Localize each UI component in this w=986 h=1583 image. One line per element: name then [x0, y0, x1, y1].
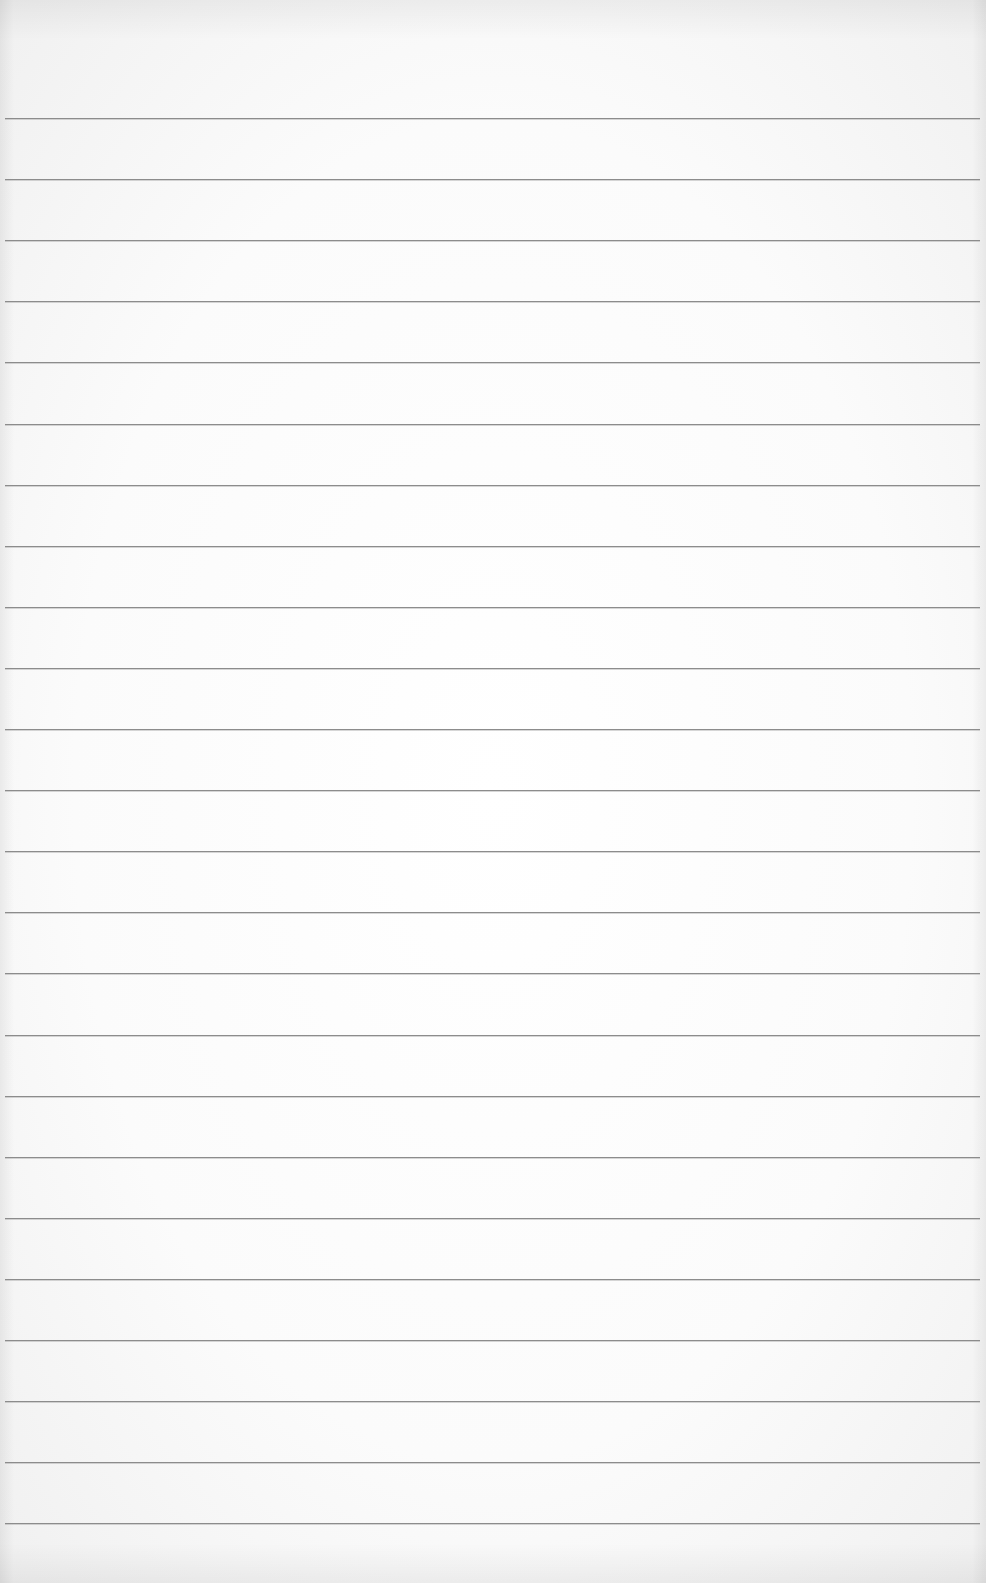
ruled-line: [5, 1157, 980, 1158]
ruled-line: [5, 1523, 980, 1524]
ruled-line: [5, 851, 980, 852]
ruled-line: [5, 424, 980, 425]
ruled-line: [5, 729, 980, 730]
ruled-line: [5, 546, 980, 547]
ruled-line: [5, 1096, 980, 1097]
ruled-line: [5, 1401, 980, 1402]
ruled-line: [5, 485, 980, 486]
ruled-line: [5, 607, 980, 608]
ruled-line: [5, 240, 980, 241]
ruled-line: [5, 973, 980, 974]
ruled-line: [5, 912, 980, 913]
ruled-line: [5, 790, 980, 791]
ruled-line: [5, 1462, 980, 1463]
ruled-line: [5, 362, 980, 363]
ruled-line: [5, 1035, 980, 1036]
lined-paper-sheet: [0, 0, 986, 1583]
ruled-line: [5, 1340, 980, 1341]
ruled-line: [5, 118, 980, 119]
ruled-line: [5, 1218, 980, 1219]
ruled-line: [5, 1279, 980, 1280]
ruled-line: [5, 668, 980, 669]
ruled-line: [5, 179, 980, 180]
ruled-line: [5, 301, 980, 302]
